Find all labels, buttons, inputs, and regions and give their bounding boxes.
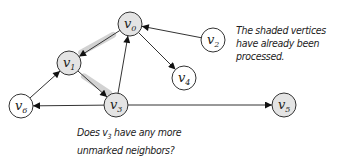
processed-note-line-3: processed. [236,50,326,63]
question-line-1: Does v3 have any more [77,126,181,144]
processed-note-line-1: The shaded vertices [236,24,326,37]
edge-v0-v4 [138,32,175,69]
edge-v2-v0 [142,26,201,37]
processed-note: The shaded vertices have already been pr… [236,24,326,63]
highlight-v1-v3 [84,76,109,93]
edge-v6-v1 [30,71,60,98]
vertex-v5: v5 [272,93,296,117]
traversal-path-highlight [81,35,113,93]
vertex-v2: v2 [201,28,225,52]
edge-v1-v3 [78,71,107,97]
vertex-v0: v0 [118,12,142,36]
processed-note-line-2: have already been [236,37,326,50]
edge-v0-v1 [79,30,120,56]
question-note: Does v3 have any more unmarked neighbors… [77,126,181,157]
question-line-2: unmarked neighbors? [77,144,181,157]
vertex-v6: v6 [9,94,33,118]
vertex-v4: v4 [172,66,196,90]
edge-v3-v6 [33,105,104,106]
vertex-v1: v1 [57,51,81,75]
vertex-v3: v3 [104,93,128,117]
edge-v3-v0 [118,36,128,93]
